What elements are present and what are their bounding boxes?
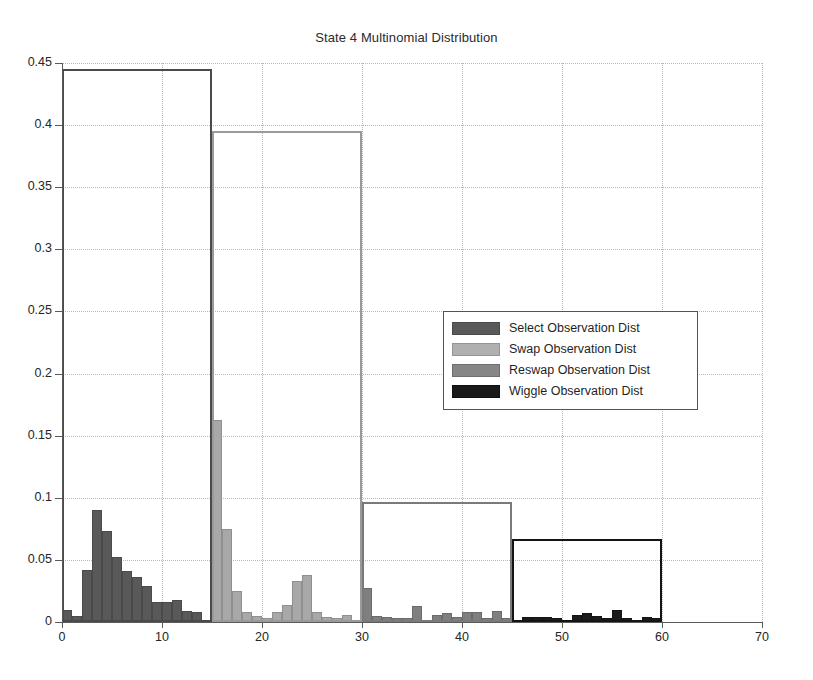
y-tick-label: 0.1 xyxy=(4,490,52,504)
legend-item-wiggle: Wiggle Observation Dist xyxy=(452,381,689,402)
group-total-box xyxy=(512,539,662,622)
legend-label: Wiggle Observation Dist xyxy=(509,385,643,398)
legend-item-swap: Swap Observation Dist xyxy=(452,339,689,360)
x-tick-label: 30 xyxy=(342,630,382,644)
y-tick-mark xyxy=(55,63,62,64)
x-tick-label: 20 xyxy=(242,630,282,644)
y-tick-mark xyxy=(55,436,62,437)
y-tick-label: 0.15 xyxy=(4,428,52,442)
y-tick-label: 0.2 xyxy=(4,366,52,380)
legend-swatch-select xyxy=(452,322,500,335)
y-tick-mark xyxy=(55,187,62,188)
legend-label: Reswap Observation Dist xyxy=(509,364,650,377)
x-tick-label: 70 xyxy=(742,630,782,644)
y-tick-mark xyxy=(55,311,62,312)
y-axis-labels: 00.050.10.150.20.250.30.350.40.45 xyxy=(0,0,52,680)
y-tick-mark xyxy=(55,374,62,375)
y-tick-mark xyxy=(55,125,62,126)
y-tick-label: 0.35 xyxy=(4,179,52,193)
y-tick-label: 0.4 xyxy=(4,117,52,131)
legend-item-select: Select Observation Dist xyxy=(452,318,689,339)
group-total-box xyxy=(212,131,362,622)
x-axis-line xyxy=(62,622,763,623)
group-total-box xyxy=(62,69,212,622)
legend-swatch-swap xyxy=(452,343,500,356)
x-tick-label: 60 xyxy=(642,630,682,644)
x-tick-label: 10 xyxy=(142,630,182,644)
y-axis-line xyxy=(62,63,63,623)
y-tick-label: 0.45 xyxy=(4,55,52,69)
y-tick-mark xyxy=(55,249,62,250)
x-tick-label: 50 xyxy=(542,630,582,644)
legend-label: Swap Observation Dist xyxy=(509,343,636,356)
legend-label: Select Observation Dist xyxy=(509,322,640,335)
chart-legend: Select Observation DistSwap Observation … xyxy=(443,311,698,410)
x-tick-label: 0 xyxy=(42,630,82,644)
y-tick-label: 0.25 xyxy=(4,303,52,317)
chart-figure: State 4 Multinomial Distribution 00.050.… xyxy=(0,0,813,680)
legend-item-reswap: Reswap Observation Dist xyxy=(452,360,689,381)
legend-swatch-wiggle xyxy=(452,385,500,398)
y-tick-label: 0.05 xyxy=(4,552,52,566)
group-total-box xyxy=(362,502,512,622)
y-tick-label: 0 xyxy=(4,614,52,628)
legend-swatch-reswap xyxy=(452,364,500,377)
y-tick-mark xyxy=(55,622,62,623)
gridline-vertical xyxy=(762,63,763,622)
y-tick-label: 0.3 xyxy=(4,241,52,255)
y-tick-mark xyxy=(55,560,62,561)
y-tick-mark xyxy=(55,498,62,499)
x-tick-label: 40 xyxy=(442,630,482,644)
chart-title: State 4 Multinomial Distribution xyxy=(0,30,813,45)
